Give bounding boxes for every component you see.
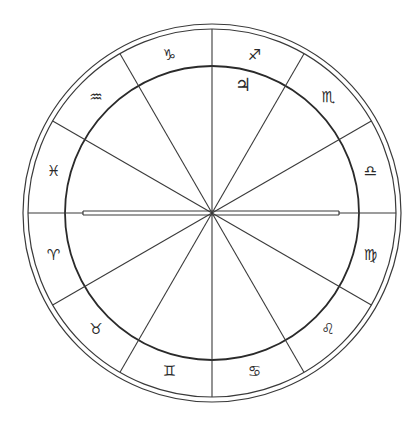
sign-gemini-icon: ♊ <box>163 364 176 379</box>
house-cusp-line <box>120 213 212 372</box>
sign-libra-icon: ♎ <box>364 163 377 178</box>
sign-virgo-icon: ♍ <box>364 248 377 263</box>
sign-leo-icon: ♌ <box>321 321 334 336</box>
house-cusps <box>53 29 372 397</box>
sign-scorpio-icon: ♏ <box>321 90 334 105</box>
planet-jupiter-icon: ♃ <box>235 76 251 94</box>
sign-sagittarius-icon: ♐ <box>248 47 261 62</box>
sign-aries-icon: ♈ <box>47 248 60 263</box>
sign-capricorn-icon: ♑ <box>163 47 176 62</box>
sign-taurus-icon: ♉ <box>89 321 102 336</box>
house-cusp-line <box>212 213 304 372</box>
sign-pisces-icon: ♓ <box>47 163 60 178</box>
sign-cancer-icon: ♋ <box>248 364 261 379</box>
house-cusp-line <box>120 54 212 213</box>
house-cusp-line <box>212 54 304 213</box>
house-cusp-line <box>53 213 212 305</box>
chart-svg <box>0 0 411 428</box>
house-cusp-line <box>53 121 212 213</box>
house-cusp-line <box>212 213 371 305</box>
house-cusp-line <box>212 121 371 213</box>
sign-aquarius-icon: ♒ <box>89 90 102 105</box>
